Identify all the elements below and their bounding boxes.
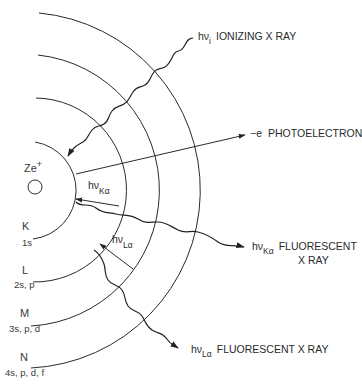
shell-n-label: N (20, 351, 28, 363)
l-alpha-fluorescent-wave (94, 250, 178, 348)
k-alpha-fluorescent-label-line2: X RAY (298, 254, 329, 266)
shell-n-arc (31, 13, 200, 368)
shell-n-orbitals: 4s, p, d, f (5, 367, 44, 378)
shell-k-orbitals: 1s (22, 237, 32, 248)
ionizing-ray-label: hνiIONIZING X RAY (198, 30, 296, 46)
nucleus-label: Ze+ (24, 159, 42, 174)
shell-m-label: M (20, 307, 29, 319)
shell-l-label: L (22, 264, 28, 276)
k-alpha-transition-label: hνKα (88, 179, 110, 196)
l-alpha-fluorescent-label: hνLαFLUORESCENT X RAY (191, 343, 328, 359)
nucleus-circle (28, 180, 42, 194)
photoelectron-arrow (76, 135, 245, 174)
shell-m-orbitals: 3s, p, d (9, 323, 40, 334)
photoelectron-label: −ePHOTOELECTRON (250, 127, 362, 139)
k-alpha-fluorescent-wave (76, 202, 244, 247)
shell-k-label: K (22, 220, 30, 232)
shell-l-orbitals: 2s, p (14, 279, 35, 290)
shell-k-arc (33, 142, 76, 239)
shell-l-arc (33, 98, 126, 282)
xray-fluorescence-diagram: Ze+ K 1s L 2s, p M 3s, p, d N 4s, p, d, … (0, 0, 362, 385)
l-alpha-transition-label: hνLα (112, 233, 133, 250)
